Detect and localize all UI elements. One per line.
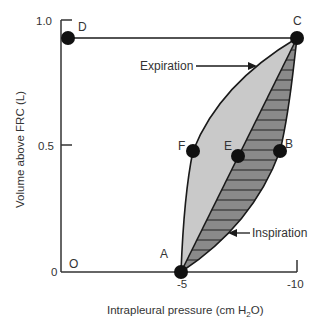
point-f <box>186 144 200 158</box>
point-e <box>231 149 245 163</box>
x-axis-title: Intrapleural pressure (cm H2O) <box>107 304 264 319</box>
inspiration-annotation: Inspiration <box>252 226 307 240</box>
label-c: C <box>293 14 302 28</box>
label-f: F <box>178 139 185 153</box>
y-axis <box>61 20 72 272</box>
label-e: E <box>224 139 232 153</box>
y-tick-1: 1.0 <box>36 15 52 27</box>
label-a: A <box>160 247 168 261</box>
origin-label: O <box>69 257 78 271</box>
point-d <box>61 31 75 45</box>
x-tick-minus10: -10 <box>287 278 304 290</box>
x-tick-minus5: -5 <box>177 278 187 290</box>
point-c <box>290 31 304 45</box>
label-d: D <box>78 20 87 34</box>
point-a <box>174 265 188 279</box>
y-tick-05: 0.5 <box>38 140 54 152</box>
expiration-arrow-icon <box>196 62 257 70</box>
label-b: B <box>285 137 293 151</box>
pressure-volume-chart: 1.0 0.5 0 -5 -10 Volume above FRC (L) In… <box>0 0 319 324</box>
y-axis-title: Volume above FRC (L) <box>14 91 26 208</box>
expiration-annotation: Expiration <box>140 59 193 73</box>
y-tick-0: 0 <box>51 266 57 278</box>
